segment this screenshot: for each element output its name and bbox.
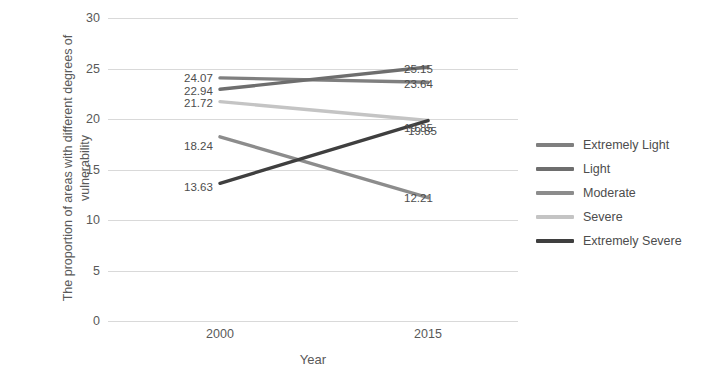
legend-swatch-icon xyxy=(536,239,574,243)
legend-swatch-icon xyxy=(536,167,574,171)
x-tick-2015: 2015 xyxy=(414,327,442,341)
legend-item-light[interactable]: Light xyxy=(536,162,682,176)
legend-item-extremely-light[interactable]: Extremely Light xyxy=(536,138,682,152)
y-tick-5: 5 xyxy=(93,264,100,278)
legend-swatch-icon xyxy=(536,143,574,147)
y-tick-20: 20 xyxy=(86,112,100,126)
x-tick-2000: 2000 xyxy=(206,327,234,341)
series-lines xyxy=(108,18,518,321)
data-label-extremely-light-2015: 23.64 xyxy=(404,78,433,90)
legend-item-label: Extremely Severe xyxy=(583,234,682,248)
data-label-light-2000: 22.94 xyxy=(184,85,213,97)
legend-item-label: Severe xyxy=(583,210,623,224)
legend: Extremely LightLightModerateSevereExtrem… xyxy=(536,138,682,248)
data-label-moderate-2015: 12.21 xyxy=(404,192,433,204)
legend-item-moderate[interactable]: Moderate xyxy=(536,186,682,200)
data-label-severe-2000: 21.72 xyxy=(184,97,213,109)
legend-item-extremely-severe[interactable]: Extremely Severe xyxy=(536,234,682,248)
data-label-extremely-severe-2015: 19.85 xyxy=(408,125,437,137)
legend-swatch-icon xyxy=(536,191,574,195)
data-label-light-2015: 25.15 xyxy=(404,63,433,75)
data-label-extremely-severe-2000: 13.63 xyxy=(184,181,213,193)
legend-item-severe[interactable]: Severe xyxy=(536,210,682,224)
data-label-extremely-light-2000: 24.07 xyxy=(184,72,213,84)
series-line-severe xyxy=(220,102,428,121)
data-label-moderate-2000: 18.24 xyxy=(184,140,213,152)
legend-swatch-icon xyxy=(536,215,574,219)
y-tick-15: 15 xyxy=(86,163,100,177)
legend-item-label: Extremely Light xyxy=(583,138,669,152)
y-tick-30: 30 xyxy=(86,11,100,25)
y-tick-10: 10 xyxy=(86,213,100,227)
y-tick-0: 0 xyxy=(93,314,100,328)
y-tick-25: 25 xyxy=(86,62,100,76)
y-axis-title-container: The proportion of areas with different d… xyxy=(14,0,70,330)
series-line-moderate xyxy=(220,137,428,198)
gridline-0 xyxy=(108,321,518,322)
line-chart: The proportion of areas with different d… xyxy=(0,0,723,387)
x-axis-title: Year xyxy=(108,352,518,367)
legend-item-label: Moderate xyxy=(583,186,636,200)
legend-item-label: Light xyxy=(583,162,610,176)
plot-area: 30 25 20 15 10 5 0 24.07 22.94 21.72 18.… xyxy=(108,18,518,321)
series-line-extremely-severe xyxy=(220,121,428,184)
